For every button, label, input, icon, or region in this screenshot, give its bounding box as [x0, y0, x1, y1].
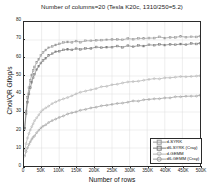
- y-tick-mark: [23, 39, 25, 40]
- legend-swatch: [153, 156, 166, 162]
- y-tick-label: 40: [1, 91, 21, 96]
- y-tick-mark: [23, 57, 25, 58]
- y-tick-label: 30: [1, 109, 21, 114]
- x-tick-mark: [112, 166, 113, 168]
- x-tick-mark: [76, 166, 77, 168]
- y-tick-label: 70: [1, 36, 21, 41]
- legend-label: d6-GEMM (Cray): [166, 157, 200, 161]
- x-tick-mark: [41, 166, 42, 168]
- y-tick-mark: [23, 112, 25, 113]
- x-tick-mark: [183, 166, 184, 168]
- square-marker-icon: [157, 140, 162, 145]
- x-tick-mark: [201, 166, 202, 168]
- y-tick-mark: [23, 21, 25, 22]
- y-tick-mark: [23, 94, 25, 95]
- series-d-syrk: [24, 35, 200, 129]
- y-tick-label: 60: [1, 55, 21, 60]
- y-tick-label: 80: [1, 18, 21, 23]
- y-tick-mark: [23, 148, 25, 149]
- y-tick-label: 20: [1, 128, 21, 133]
- legend-item[interactable]: d6-GEMM (Cray): [153, 156, 200, 162]
- chart-title: Number of columns=20 (Tesla K20c, 1310/2…: [0, 3, 224, 10]
- legend-label: d6-SYRK (Cray): [166, 146, 198, 150]
- x-tick-mark: [130, 166, 131, 168]
- legend-label: d-SYRK: [166, 140, 183, 144]
- x-axis-label: Number of rows: [0, 176, 224, 183]
- x-tick-label: 500K: [189, 169, 213, 174]
- y-tick-label: 10: [1, 146, 21, 151]
- square-marker-icon: [157, 146, 162, 151]
- x-tick-mark: [23, 166, 24, 168]
- circle-marker-icon: [157, 151, 162, 156]
- x-tick-mark: [59, 166, 60, 168]
- chart-figure: Number of columns=20 (Tesla K20c, 1310/2…: [0, 0, 224, 192]
- y-tick-label: 50: [1, 73, 21, 78]
- x-tick-mark: [148, 166, 149, 168]
- circle-marker-icon: [157, 157, 162, 162]
- chart-legend: d-SYRKd6-SYRK (Cray)d-GEMMd6-GEMM (Cray): [150, 138, 202, 164]
- y-tick-mark: [23, 130, 25, 131]
- x-tick-mark: [165, 166, 166, 168]
- x-tick-mark: [94, 166, 95, 168]
- y-tick-mark: [23, 75, 25, 76]
